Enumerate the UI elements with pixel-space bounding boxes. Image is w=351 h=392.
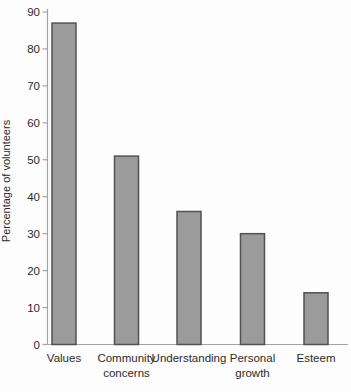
y-tick-label: 70 <box>27 80 40 92</box>
y-tick-label: 80 <box>27 43 40 55</box>
x-category-label-esteem: Esteem <box>297 352 336 364</box>
x-category-label-community-concerns: Community <box>97 352 155 364</box>
chart-canvas: 0102030405060708090ValuesCommunityconcer… <box>0 0 351 392</box>
bar-understanding <box>177 212 201 345</box>
bar-chart: 0102030405060708090ValuesCommunityconcer… <box>0 0 351 392</box>
x-category-label-values: Values <box>47 352 82 364</box>
y-tick-label: 30 <box>27 228 40 240</box>
x-category-label-personal-growth: Personal <box>230 352 275 364</box>
y-tick-label: 0 <box>34 339 40 351</box>
bar-personal-growth <box>241 234 265 345</box>
x-category-label-understanding: Understanding <box>152 352 227 364</box>
y-tick-label: 90 <box>27 6 40 18</box>
y-tick-label: 60 <box>27 117 40 129</box>
y-tick-label: 10 <box>27 302 40 314</box>
bar-community-concerns <box>115 156 139 344</box>
bar-values <box>52 23 76 344</box>
y-axis-label: Percentage of volunteers <box>0 119 12 242</box>
y-tick-label: 40 <box>27 191 40 203</box>
y-tick-label: 50 <box>27 154 40 166</box>
x-category-label-community-concerns: concerns <box>103 367 150 379</box>
y-tick-label: 20 <box>27 265 40 277</box>
x-category-label-personal-growth: growth <box>235 367 270 379</box>
bar-esteem <box>304 293 328 345</box>
chart-generated-layer: 0102030405060708090ValuesCommunityconcer… <box>0 0 351 392</box>
